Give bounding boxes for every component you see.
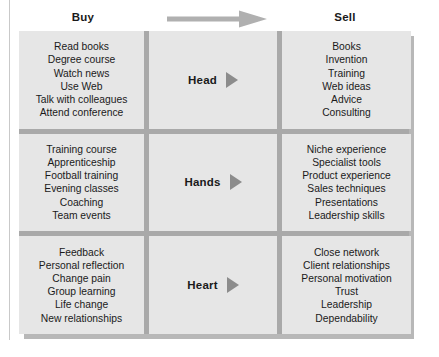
list-item: Watch news xyxy=(54,67,110,80)
buy-cell-hands: Training course Apprenticeship Football … xyxy=(19,134,144,232)
list-item: Use Web xyxy=(60,80,102,93)
list-item: Personal motivation xyxy=(301,272,391,285)
list-item: Advice xyxy=(331,93,362,106)
list-item: Life change xyxy=(55,298,108,311)
list-item: Sales techniques xyxy=(307,182,385,195)
middle-cell-heart: Heart xyxy=(149,236,277,334)
list-item: Books xyxy=(332,40,361,53)
list-item: Dependability xyxy=(315,312,377,325)
list-item: Attend conference xyxy=(40,106,124,119)
sell-cell-head: Books Invention Training Web ideas Advic… xyxy=(282,31,411,129)
middle-cell-label: Hands xyxy=(184,176,220,188)
play-triangle-icon xyxy=(230,174,242,190)
left-margin-rule xyxy=(9,0,10,340)
sell-cell-heart: Close network Client relationships Perso… xyxy=(282,236,411,334)
list-item: Degree course xyxy=(48,53,116,66)
list-item: Coaching xyxy=(60,196,104,209)
list-item: Web ideas xyxy=(322,80,370,93)
play-triangle-icon xyxy=(227,277,239,293)
list-item: Presentations xyxy=(315,196,378,209)
list-item: Group learning xyxy=(47,285,115,298)
list-item: Training xyxy=(328,67,365,80)
list-item: Football training xyxy=(45,169,118,182)
list-item: Trust xyxy=(335,285,358,298)
list-item: Specialist tools xyxy=(312,156,381,169)
sell-cell-hands: Niche experience Specialist tools Produc… xyxy=(282,134,411,232)
list-item: New relationships xyxy=(41,312,122,325)
list-item: Evening classes xyxy=(44,182,118,195)
buy-cell-heart: Feedback Personal reflection Change pain… xyxy=(19,236,144,334)
list-item: Training course xyxy=(46,143,117,156)
middle-cell-head: Head xyxy=(149,31,277,129)
list-item: Change pain xyxy=(52,272,110,285)
buy-column-header: Buy xyxy=(19,8,147,26)
buy-sell-matrix-figure: Buy Sell Read books Degree course Watch … xyxy=(19,0,423,345)
play-triangle-icon xyxy=(226,72,238,88)
matrix-header: Buy Sell xyxy=(19,8,409,30)
middle-cell-label: Heart xyxy=(187,279,217,291)
list-item: Feedback xyxy=(59,246,104,259)
list-item: Talk with colleagues xyxy=(36,93,128,106)
list-item: Niche experience xyxy=(307,143,387,156)
list-item: Leadership skills xyxy=(308,209,384,222)
list-item: Consulting xyxy=(322,106,371,119)
middle-cell-hands: Hands xyxy=(149,134,277,232)
buy-cell-head: Read books Degree course Watch news Use … xyxy=(19,31,144,129)
list-item: Personal reflection xyxy=(39,259,124,272)
list-item: Product experience xyxy=(302,169,391,182)
list-item: Close network xyxy=(314,246,379,259)
list-item: Team events xyxy=(52,209,110,222)
list-item: Invention xyxy=(326,53,368,66)
list-item: Read books xyxy=(54,40,109,53)
sell-column-header: Sell xyxy=(281,8,409,26)
matrix-grid: Read books Degree course Watch news Use … xyxy=(19,31,409,334)
middle-cell-label: Head xyxy=(188,74,217,86)
list-item: Client relationships xyxy=(303,259,390,272)
right-arrow-icon xyxy=(167,10,267,28)
list-item: Leadership xyxy=(321,298,372,311)
list-item: Apprenticeship xyxy=(47,156,115,169)
